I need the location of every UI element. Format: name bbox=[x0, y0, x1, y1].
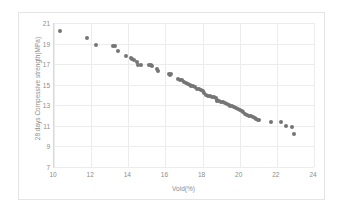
gridline-vertical bbox=[54, 23, 55, 167]
data-point bbox=[94, 43, 98, 47]
gridline-vertical bbox=[165, 23, 166, 167]
y-tick-label: 21 bbox=[43, 20, 50, 27]
gridline-horizontal bbox=[54, 146, 314, 147]
data-point bbox=[113, 44, 117, 48]
y-tick-label: 9 bbox=[46, 143, 50, 150]
data-point bbox=[290, 125, 294, 129]
data-point bbox=[284, 124, 288, 128]
y-tick-label: 11 bbox=[43, 122, 50, 129]
x-tick-label: 20 bbox=[235, 171, 242, 178]
gridline-horizontal bbox=[54, 126, 314, 127]
y-tick-label: 13 bbox=[43, 102, 50, 109]
gridline-vertical bbox=[91, 23, 92, 167]
data-point bbox=[58, 29, 62, 33]
y-tick-label: 7 bbox=[46, 164, 50, 171]
data-point bbox=[279, 120, 283, 124]
x-tick-label: 14 bbox=[124, 171, 131, 178]
x-tick-label: 18 bbox=[198, 171, 205, 178]
gridline-vertical bbox=[314, 23, 315, 167]
y-tick-label: 19 bbox=[43, 40, 50, 47]
plot-area bbox=[53, 23, 314, 168]
y-tick-label: 15 bbox=[43, 81, 50, 88]
data-point bbox=[85, 36, 89, 40]
data-point bbox=[139, 63, 143, 67]
x-tick-label: 10 bbox=[49, 171, 56, 178]
data-point bbox=[116, 49, 120, 53]
data-point bbox=[169, 72, 173, 76]
gridline-vertical bbox=[240, 23, 241, 167]
data-point bbox=[156, 69, 160, 73]
x-tick-label: 16 bbox=[161, 171, 168, 178]
gridline-horizontal bbox=[54, 64, 314, 65]
gridline-horizontal bbox=[54, 105, 314, 106]
y-axis-title: 28 days Compessive strength(MPa) bbox=[34, 14, 41, 164]
data-point bbox=[292, 132, 296, 136]
gridline-horizontal bbox=[54, 23, 314, 24]
x-tick-label: 22 bbox=[272, 171, 279, 178]
data-point bbox=[257, 118, 261, 122]
x-tick-label: 12 bbox=[87, 171, 94, 178]
x-tick-label: 24 bbox=[309, 171, 316, 178]
data-point bbox=[269, 120, 273, 124]
gridline-horizontal bbox=[54, 167, 314, 168]
y-tick-label: 17 bbox=[43, 61, 50, 68]
gridline-horizontal bbox=[54, 85, 314, 86]
gridline-vertical bbox=[128, 23, 129, 167]
data-point bbox=[150, 64, 154, 68]
chart-container: 79111315171921 1012141618202224 Void(%) … bbox=[18, 12, 325, 200]
x-axis-title: Void(%) bbox=[53, 185, 314, 192]
x-axis-tick-labels: 1012141618202224 bbox=[53, 171, 314, 183]
gridline-vertical bbox=[277, 23, 278, 167]
